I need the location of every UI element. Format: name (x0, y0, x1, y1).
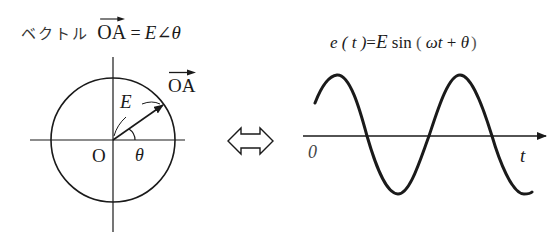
angle-label: θ (135, 146, 144, 164)
phasor-diagram (30, 57, 185, 232)
waveform-plot (303, 75, 546, 194)
phasor-title-vector: OA (97, 22, 126, 42)
equation-lhs: e (330, 33, 338, 52)
time-axis-label: t (520, 146, 525, 165)
equation-lhs-arg: ( t ) (342, 33, 367, 52)
sine-curve (315, 75, 532, 194)
phasor-title-prefix: ベクトル (21, 25, 89, 43)
equation-theta: θ (461, 33, 469, 52)
double-arrow-icon (228, 128, 273, 154)
equation-amplitude: E (376, 31, 388, 52)
phasor-title-angle: θ (172, 22, 181, 43)
equation-omega-t: ωt (426, 33, 443, 52)
equation-equals: = (366, 33, 376, 52)
vector-overarrow-icon (169, 69, 197, 76)
phasor-title-magnitude: E (145, 22, 157, 43)
origin-label: O (92, 146, 106, 165)
vector-label-leader-line (142, 102, 160, 104)
equation-close-paren: ) (471, 33, 477, 52)
phasor-title-equals: = (130, 23, 140, 43)
phasor-title: ベクトル OA = E∠θ (21, 22, 181, 42)
magnitude-label: E (120, 92, 132, 111)
equation-open-paren: ( (416, 33, 422, 52)
phasor-title-angle-symbol: ∠ (156, 23, 171, 43)
waveform-origin-label: 0 (308, 143, 317, 161)
equation-function: sin (392, 33, 412, 52)
vector-oa-label: OA (168, 76, 195, 95)
waveform-equation: e ( t )=E sin ( ωt + θ) (330, 32, 477, 51)
angle-arc (129, 129, 135, 140)
magnitude-leader-line (114, 117, 126, 136)
equation-plus: + (447, 33, 457, 52)
vector-overarrow-icon (98, 16, 128, 22)
